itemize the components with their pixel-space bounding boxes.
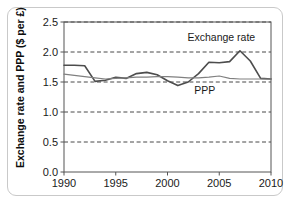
y-axis-label: Exchange rate and PPP ($ per £): [14, 7, 26, 168]
y-tick-label: 1.5: [43, 76, 58, 88]
y-tick-label: 0.5: [43, 136, 58, 148]
x-tick-label: 1995: [104, 177, 128, 189]
x-axis-ticks: 19901995200020052010: [52, 172, 283, 189]
series-line-exchange-rate: [64, 51, 271, 86]
chart-container: 0.00.51.01.52.02.5 19901995200020052010 …: [0, 0, 291, 203]
x-tick-label: 2005: [207, 177, 231, 189]
y-tick-label: 2.5: [43, 16, 58, 28]
series-line-ppp: [64, 74, 271, 79]
y-tick-label: 1.0: [43, 106, 58, 118]
y-axis-ticks: 0.00.51.01.52.02.5: [43, 16, 64, 178]
data-series: [64, 51, 271, 86]
x-tick-label: 2010: [259, 177, 283, 189]
y-tick-label: 2.0: [43, 46, 58, 58]
line-chart: 0.00.51.01.52.02.5 19901995200020052010 …: [0, 0, 291, 203]
ppp-annotation: PPP: [194, 84, 215, 96]
x-tick-label: 2000: [155, 177, 179, 189]
series-annotations: Exchange ratePPP: [187, 31, 255, 96]
exchange-rate-annotation: Exchange rate: [187, 31, 255, 43]
x-tick-label: 1990: [52, 177, 76, 189]
plot-area-border: [64, 22, 271, 172]
